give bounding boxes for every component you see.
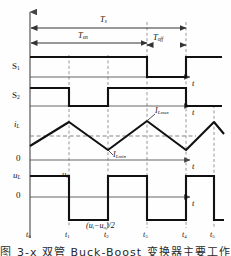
annotation-ul-low: (ui−uo)/2 bbox=[86, 222, 115, 231]
axis-il bbox=[30, 121, 224, 160]
annotation-ui: ui bbox=[62, 170, 68, 179]
time-mark-t5: t5 bbox=[210, 231, 215, 240]
figure-caption: 图 3-x 双管 Buck-Boost 变换器主要工作波形 bbox=[0, 243, 231, 256]
time-mark-t4: t4 bbox=[182, 231, 187, 240]
s1-waveform bbox=[30, 57, 222, 77]
ul-waveform bbox=[30, 176, 224, 220]
dim-label-ts: Ts bbox=[100, 15, 107, 24]
waveform-plot-canvas bbox=[0, 0, 231, 256]
xlabel-s1: t bbox=[192, 79, 194, 88]
s2-waveform bbox=[30, 88, 222, 106]
ylabel-s1: S1 bbox=[12, 62, 20, 72]
time-mark-t3: t3 bbox=[143, 231, 148, 240]
dim-label-toff: Toff bbox=[153, 33, 163, 42]
annotation-ilmin: ILmin bbox=[113, 151, 126, 160]
ylabel-ul: uL bbox=[13, 171, 21, 181]
time-mark-t0: t0 bbox=[26, 231, 31, 240]
ylabel-ul-zero: 0 bbox=[16, 191, 21, 200]
ilmax-leader bbox=[148, 114, 155, 120]
xlabel-il: t bbox=[192, 162, 194, 171]
xlabel-s2: t bbox=[192, 108, 194, 117]
axis-s2 bbox=[30, 88, 222, 106]
ylabel-s2: S2 bbox=[12, 91, 20, 101]
dim-label-ton: Ton bbox=[78, 31, 88, 40]
ylabel-il-zero: 0 bbox=[16, 154, 21, 163]
time-mark-t2: t2 bbox=[104, 231, 109, 240]
annotation-ilmax: ILmax bbox=[155, 107, 169, 116]
axis-s1 bbox=[30, 57, 222, 77]
ylabel-il: iL bbox=[14, 120, 20, 130]
time-mark-t1: t1 bbox=[65, 231, 70, 240]
il-waveform bbox=[30, 121, 224, 150]
annotation-leaders bbox=[108, 114, 155, 155]
xlabel-ul: t bbox=[192, 199, 194, 208]
axis-ul bbox=[30, 176, 224, 220]
waveform-figure: Ts Ton Toff S1 S2 iL 0 uL 0 t t t t ILma… bbox=[0, 0, 231, 256]
